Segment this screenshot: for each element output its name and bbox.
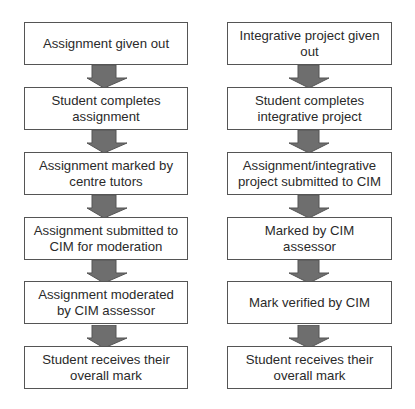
left-step-2-label: Student completes assignment (36, 93, 176, 125)
down-arrow-icon (288, 130, 330, 154)
right-step-3-label: Assignment/integrative project submitted… (234, 158, 385, 190)
left-step-6-label: Student receives their overall mark (34, 352, 178, 384)
right-step-3-box: Assignment/integrative project submitted… (227, 152, 392, 195)
right-flow-column: Integrative project given out Student co… (227, 0, 392, 409)
left-step-6-box: Student receives their overall mark (24, 346, 188, 389)
down-arrow-icon (86, 195, 128, 219)
left-step-2-box: Student completes assignment (24, 87, 188, 130)
left-step-3-label: Assignment marked by centre tutors (31, 158, 181, 190)
left-step-1-label: Assignment given out (43, 36, 169, 52)
right-step-2-box: Student completes integrative project (227, 87, 392, 130)
down-arrow-icon (288, 65, 330, 89)
right-step-1-box: Integrative project given out (227, 22, 392, 65)
left-step-1-box: Assignment given out (24, 22, 188, 65)
right-step-6-box: Student receives their overall mark (227, 346, 392, 389)
right-step-1-label: Integrative project given out (235, 28, 385, 60)
right-step-4-label: Marked by CIM assessor (260, 223, 360, 255)
right-step-4-box: Marked by CIM assessor (227, 217, 392, 260)
left-step-5-label: Assignment moderated by CIM assessor (33, 287, 179, 319)
left-step-4-label: Assignment submitted to CIM for moderati… (31, 223, 181, 255)
right-step-2-label: Student completes integrative project (240, 93, 380, 125)
left-step-3-box: Assignment marked by centre tutors (24, 152, 188, 195)
left-flow-column: Assignment given out Student completes a… (24, 0, 188, 409)
right-step-5-box: Mark verified by CIM (227, 281, 392, 324)
down-arrow-icon (86, 65, 128, 89)
right-step-6-label: Student receives their overall mark (238, 352, 382, 384)
left-step-5-box: Assignment moderated by CIM assessor (24, 281, 188, 324)
down-arrow-icon (86, 130, 128, 154)
right-step-5-label: Mark verified by CIM (249, 295, 370, 311)
down-arrow-icon (288, 195, 330, 219)
left-step-4-box: Assignment submitted to CIM for moderati… (24, 217, 188, 260)
